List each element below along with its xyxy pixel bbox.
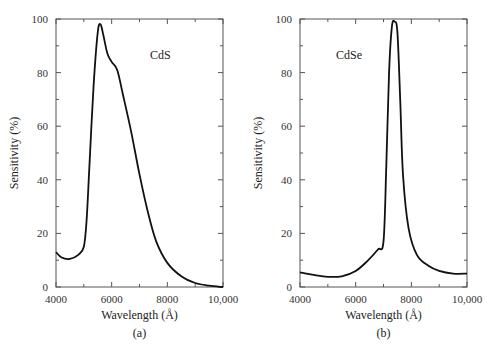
x-tick-label: 10,000 — [452, 293, 483, 305]
y-tick-label: 20 — [37, 227, 49, 239]
y-tick-label: 40 — [37, 174, 49, 186]
x-tick-label: 6000 — [345, 293, 368, 305]
x-tick-label: 8000 — [400, 293, 423, 305]
chart-panel-a: 40006000800010,000020406080100Wavelength… — [7, 13, 239, 340]
y-tick-label: 40 — [281, 174, 293, 186]
y-tick-label: 20 — [281, 227, 293, 239]
y-tick-label: 60 — [281, 120, 293, 132]
sensitivity-curve — [56, 24, 223, 287]
x-tick-label: 10,000 — [208, 293, 239, 305]
series-annotation: CdS — [150, 48, 171, 62]
y-tick-label: 60 — [37, 120, 49, 132]
x-axis-label: Wavelength (Å) — [101, 308, 178, 322]
x-tick-label: 8000 — [156, 293, 179, 305]
panel-label: (b) — [377, 326, 391, 340]
y-tick-label: 0 — [287, 281, 293, 293]
y-tick-label: 80 — [281, 67, 293, 79]
y-axis-label: Sensitivity (%) — [251, 117, 265, 189]
series-annotation: CdSe — [336, 48, 362, 62]
y-tick-label: 100 — [32, 13, 49, 25]
plot-frame — [56, 19, 223, 287]
x-tick-label: 4000 — [289, 293, 312, 305]
y-axis-label: Sensitivity (%) — [7, 117, 21, 189]
y-tick-label: 0 — [43, 281, 49, 293]
y-tick-label: 80 — [37, 67, 49, 79]
figure: 40006000800010,000020406080100Wavelength… — [0, 0, 497, 351]
y-tick-label: 100 — [276, 13, 293, 25]
chart-panel-b: 40006000800010,000020406080100Wavelength… — [251, 13, 483, 340]
x-tick-label: 6000 — [101, 293, 124, 305]
x-tick-label: 4000 — [45, 293, 68, 305]
panel-label: (a) — [133, 326, 146, 340]
sensitivity-curve — [300, 21, 467, 277]
x-axis-label: Wavelength (Å) — [345, 308, 422, 322]
